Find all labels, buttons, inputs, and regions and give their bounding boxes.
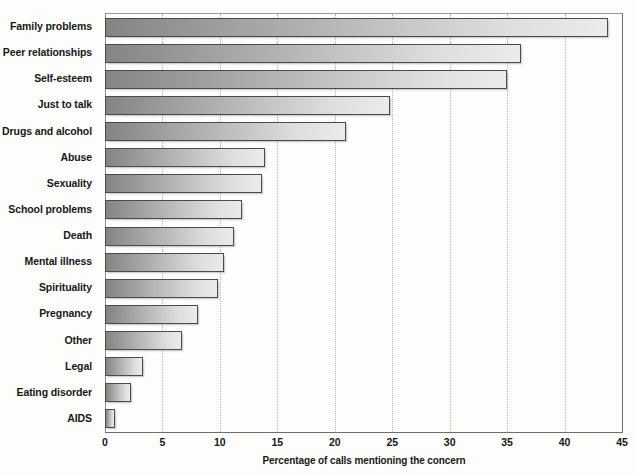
x-axis-title: Percentage of calls mentioning the conce… (105, 455, 623, 466)
bar (105, 122, 346, 141)
x-tick-label: 40 (559, 436, 571, 448)
category-label: Death (0, 222, 99, 248)
category-label: Self-esteem (0, 65, 99, 91)
bar (105, 200, 242, 219)
bar (105, 227, 234, 246)
bar-row (105, 328, 622, 354)
bar-row (105, 66, 622, 92)
bar (105, 174, 262, 193)
bar (105, 253, 224, 272)
category-label: Spirituality (0, 274, 99, 300)
bar (105, 357, 143, 376)
x-tick-label: 30 (444, 436, 456, 448)
bar-row (105, 197, 622, 223)
bar (105, 305, 198, 324)
category-label: Peer relationships (0, 39, 99, 65)
bars-layer (105, 14, 622, 432)
bar (105, 409, 115, 428)
x-tick-label: 25 (386, 436, 398, 448)
bar-row (105, 92, 622, 118)
bar (105, 18, 608, 37)
category-label: Other (0, 327, 99, 353)
x-tick-label: 45 (616, 436, 628, 448)
plot-area (105, 13, 623, 433)
x-tick-label: 0 (102, 436, 108, 448)
bar-row (105, 249, 622, 275)
bar (105, 279, 218, 298)
category-label: Abuse (0, 144, 99, 170)
category-label: School problems (0, 196, 99, 222)
bar (105, 148, 265, 167)
bar-row (105, 380, 622, 406)
bar-row (105, 119, 622, 145)
category-axis: Family problemsPeer relationshipsSelf-es… (0, 13, 99, 431)
bar-row (105, 40, 622, 66)
category-label: Legal (0, 353, 99, 379)
bar (105, 70, 507, 89)
category-label: AIDS (0, 405, 99, 431)
x-tick-label: 5 (160, 436, 166, 448)
category-label: Mental illness (0, 248, 99, 274)
category-label: Sexuality (0, 170, 99, 196)
bar-row (105, 171, 622, 197)
bar (105, 383, 131, 402)
x-axis-ticks: 051015202530354045 (105, 433, 623, 449)
bar (105, 331, 182, 350)
bar-row (105, 275, 622, 301)
bar-row (105, 301, 622, 327)
x-tick-label: 35 (501, 436, 513, 448)
category-label: Just to talk (0, 91, 99, 117)
x-tick-label: 10 (214, 436, 226, 448)
bar (105, 96, 390, 115)
x-tick-label: 15 (271, 436, 283, 448)
category-label: Drugs and alcohol (0, 118, 99, 144)
x-tick-label: 20 (329, 436, 341, 448)
bar-row (105, 145, 622, 171)
category-label: Eating disorder (0, 379, 99, 405)
bar-row (105, 223, 622, 249)
bar-row (105, 406, 622, 432)
category-label: Family problems (0, 13, 99, 39)
bar-row (105, 14, 622, 40)
bar (105, 44, 521, 63)
category-label: Pregnancy (0, 300, 99, 326)
bar-row (105, 354, 622, 380)
horizontal-bar-chart: Family problemsPeer relationshipsSelf-es… (0, 0, 637, 475)
